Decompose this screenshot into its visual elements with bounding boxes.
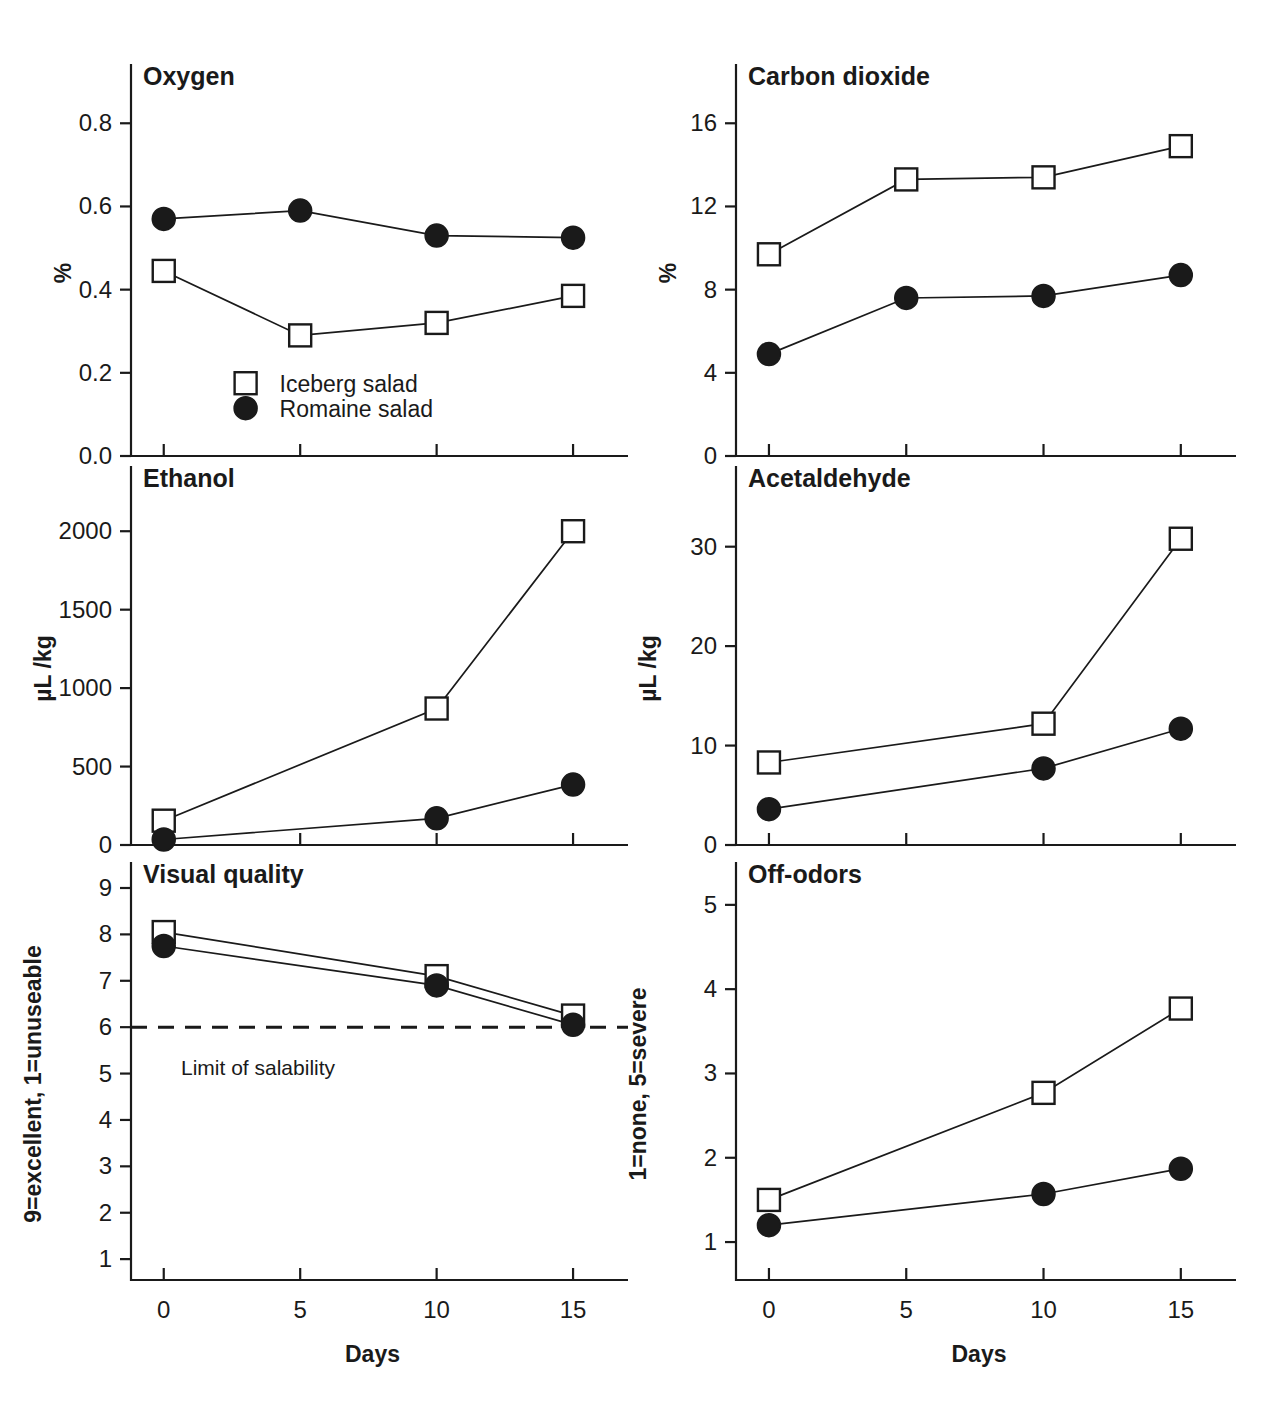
series-line-romaine — [769, 729, 1181, 810]
y-axis-title: % — [655, 263, 681, 283]
x-axis-title: Days — [345, 1341, 400, 1367]
y-tick-label: 0.4 — [79, 276, 112, 303]
data-point-romaine — [1032, 284, 1055, 307]
data-point-iceberg — [758, 1189, 780, 1211]
y-tick-label: 0.0 — [79, 442, 112, 469]
data-point-romaine — [757, 1214, 780, 1237]
y-axis-title: 9=excellent, 1=unuseable — [20, 945, 46, 1222]
data-point-romaine — [152, 828, 175, 851]
y-axis-title: µL /kg — [635, 635, 661, 702]
axis-lines — [736, 466, 1236, 845]
data-point-romaine — [562, 1013, 585, 1036]
data-point-romaine — [152, 934, 175, 957]
panel-title: Ethanol — [143, 464, 235, 492]
x-tick-label: 15 — [560, 1296, 587, 1323]
data-point-romaine — [152, 207, 175, 230]
x-tick-label: 15 — [1167, 1296, 1194, 1323]
panel-off-odors: 12345051015DaysOff-odors1=none, 5=severe — [625, 860, 1236, 1367]
panel-carbon-dioxide: 0481216Carbon dioxide% — [655, 62, 1236, 469]
series-line-iceberg — [164, 531, 573, 821]
data-point-iceberg — [1170, 528, 1192, 550]
y-tick-label: 2000 — [59, 517, 112, 544]
y-tick-label: 4 — [704, 975, 717, 1002]
legend-label-romaine: Romaine salad — [280, 396, 433, 422]
y-tick-label: 1000 — [59, 674, 112, 701]
figure-panel-grid: 0.00.20.40.60.8Oxygen%Iceberg saladRomai… — [0, 0, 1271, 1416]
data-point-romaine — [425, 974, 448, 997]
data-point-romaine — [289, 199, 312, 222]
y-tick-label: 0.8 — [79, 109, 112, 136]
panel-title: Carbon dioxide — [748, 62, 930, 90]
panel-title: Acetaldehyde — [748, 464, 911, 492]
data-point-romaine — [1169, 264, 1192, 287]
data-point-iceberg — [758, 751, 780, 773]
series-line-romaine — [769, 275, 1181, 354]
y-tick-label: 0 — [704, 442, 717, 469]
y-tick-label: 2 — [704, 1144, 717, 1171]
panels-container: 0.00.20.40.60.8Oxygen%Iceberg saladRomai… — [0, 0, 1271, 1416]
y-tick-label: 8 — [704, 276, 717, 303]
y-tick-label: 0 — [704, 831, 717, 858]
series-line-iceberg — [164, 271, 573, 336]
y-tick-label: 16 — [690, 109, 717, 136]
y-tick-label: 12 — [690, 192, 717, 219]
data-point-iceberg — [426, 312, 448, 334]
data-point-romaine — [895, 286, 918, 309]
x-tick-label: 5 — [900, 1296, 913, 1323]
series-line-iceberg — [769, 146, 1181, 254]
y-tick-label: 3 — [704, 1059, 717, 1086]
y-tick-label: 9 — [99, 874, 112, 901]
data-point-iceberg — [1170, 998, 1192, 1020]
y-tick-label: 7 — [99, 967, 112, 994]
data-point-iceberg — [758, 243, 780, 265]
data-point-romaine — [1032, 1183, 1055, 1206]
panel-oxygen: 0.00.20.40.60.8Oxygen%Iceberg saladRomai… — [50, 62, 628, 469]
y-tick-label: 500 — [72, 753, 112, 780]
x-tick-label: 5 — [294, 1296, 307, 1323]
axis-lines — [131, 466, 628, 845]
data-point-iceberg — [562, 520, 584, 542]
data-point-iceberg — [895, 168, 917, 190]
data-point-romaine — [1169, 717, 1192, 740]
series-line-romaine — [164, 211, 573, 238]
figure-svg: 0.00.20.40.60.8Oxygen%Iceberg saladRomai… — [0, 0, 1271, 1416]
legend-marker-iceberg — [235, 372, 257, 394]
y-tick-label: 8 — [99, 920, 112, 947]
y-tick-label: 6 — [99, 1013, 112, 1040]
y-tick-label: 30 — [690, 533, 717, 560]
data-point-iceberg — [153, 260, 175, 282]
data-point-romaine — [1032, 757, 1055, 780]
panel-acetaldehyde: 0102030AcetaldehydeµL /kg — [635, 464, 1236, 858]
y-tick-label: 1 — [99, 1245, 112, 1272]
y-tick-label: 0.2 — [79, 359, 112, 386]
series-line-romaine — [164, 785, 573, 840]
series-line-iceberg — [769, 1009, 1181, 1200]
data-point-romaine — [757, 798, 780, 821]
series-line-romaine — [769, 1169, 1181, 1226]
y-tick-label: 3 — [99, 1152, 112, 1179]
y-tick-label: 0 — [99, 831, 112, 858]
series-line-iceberg — [769, 539, 1181, 763]
y-axis-title: µL /kg — [30, 635, 56, 702]
x-tick-label: 10 — [1030, 1296, 1057, 1323]
y-tick-label: 5 — [99, 1060, 112, 1087]
y-tick-label: 5 — [704, 891, 717, 918]
y-tick-label: 20 — [690, 632, 717, 659]
x-tick-label: 0 — [157, 1296, 170, 1323]
y-tick-label: 10 — [690, 732, 717, 759]
series-line-iceberg — [164, 932, 573, 1016]
y-tick-label: 1 — [704, 1228, 717, 1255]
panel-title: Off-odors — [748, 860, 862, 888]
data-point-iceberg — [426, 698, 448, 720]
y-tick-label: 0.6 — [79, 192, 112, 219]
data-point-iceberg — [1033, 713, 1055, 735]
x-tick-label: 0 — [762, 1296, 775, 1323]
x-axis-title: Days — [952, 1341, 1007, 1367]
data-point-iceberg — [1170, 135, 1192, 157]
panel-title: Visual quality — [143, 860, 304, 888]
data-point-iceberg — [289, 324, 311, 346]
panel-ethanol: 0500100015002000EthanolµL /kg — [30, 464, 628, 858]
data-point-iceberg — [1033, 166, 1055, 188]
data-point-iceberg — [562, 285, 584, 307]
data-point-romaine — [425, 224, 448, 247]
